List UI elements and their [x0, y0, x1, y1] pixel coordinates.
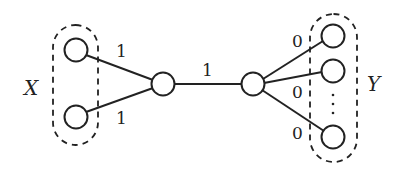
flow-network-diagram: X Y 1 1 1 0 0 0 — [0, 0, 409, 172]
weight-hub-right-yn: 0 — [292, 123, 303, 143]
node-hub-right — [242, 73, 265, 96]
node-y2 — [322, 60, 345, 83]
node-x-bottom — [65, 106, 88, 129]
node-hub-left — [152, 73, 175, 96]
weight-hub-left-hub-right: 1 — [202, 60, 213, 80]
weight-x-top-hub-left: 1 — [116, 41, 127, 61]
set-y-label: Y — [367, 72, 382, 96]
weight-hub-right-y1: 0 — [292, 31, 303, 51]
node-y1 — [322, 25, 345, 48]
node-x-top — [65, 39, 88, 62]
weight-hub-right-y2: 0 — [292, 82, 303, 102]
set-x-label: X — [22, 76, 39, 100]
ellipsis-dot — [332, 112, 335, 115]
ellipsis-dot — [332, 103, 335, 106]
ellipsis-dot — [332, 94, 335, 97]
weight-x-bottom-hub-left: 1 — [116, 108, 127, 128]
node-yn — [322, 126, 345, 149]
